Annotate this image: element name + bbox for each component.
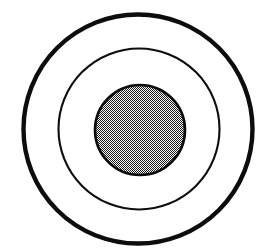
concentric-circles-diagram <box>0 0 271 252</box>
figure-canvas <box>0 0 271 252</box>
